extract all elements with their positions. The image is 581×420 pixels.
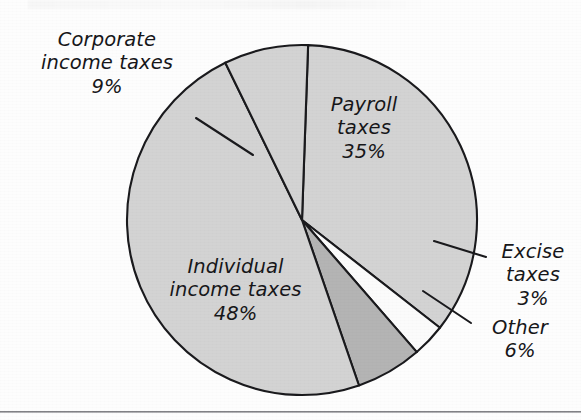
slice-label-corporate-income-taxes: Corporate income taxes 9% — [16, 28, 198, 98]
slice-label-individual-income-taxes: Individual income taxes 48% — [128, 255, 343, 325]
bottom-divider-rule — [0, 411, 581, 413]
slice-label-other: Other 6% — [471, 316, 569, 363]
slice-label-excise-taxes: Excise taxes 3% — [489, 240, 577, 310]
figure-page: Corporate income taxes 9% Payroll taxes … — [0, 0, 581, 420]
slice-label-payroll-taxes: Payroll taxes 35% — [300, 93, 428, 163]
